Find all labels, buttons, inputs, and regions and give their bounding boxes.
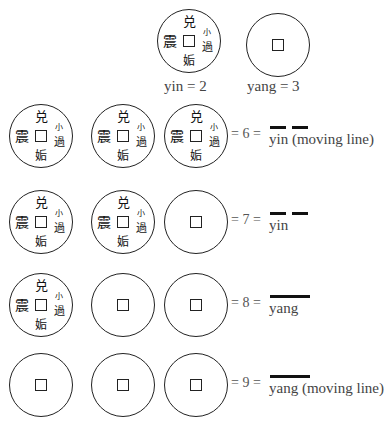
coin-char: 震	[97, 215, 111, 229]
legend-yang-label: yang = 3	[247, 78, 300, 95]
coin-char: 兑	[35, 196, 48, 209]
coin-yin: 兑震姤小過	[9, 104, 73, 168]
square-hole-icon	[117, 216, 129, 228]
coin-char: 震	[15, 298, 29, 312]
coin-char: 過	[54, 137, 65, 148]
coin-char: 過	[54, 223, 65, 234]
coin-char: 小	[55, 293, 63, 301]
square-hole-icon	[190, 130, 202, 142]
legend-yin-label: yin = 2	[164, 78, 207, 95]
square-hole-icon	[272, 39, 284, 51]
coin-char-right-top: 小	[203, 29, 211, 37]
coin-char: 過	[136, 223, 147, 234]
coin-char-bottom: 姤	[183, 55, 195, 67]
coin-char: 姤	[117, 236, 129, 248]
coin-yang	[91, 353, 155, 417]
coin-char: 小	[210, 124, 218, 132]
coin-char: 兑	[117, 196, 130, 209]
row-equation: = 6 =	[231, 126, 261, 142]
square-hole-icon	[35, 130, 47, 142]
coin-char: 小	[137, 124, 145, 132]
coin-char: 兑	[35, 110, 48, 123]
square-hole-icon	[190, 379, 202, 391]
coin-yin: 兑震姤小過	[164, 104, 228, 168]
coin-char: 兑	[35, 279, 48, 292]
coin-char-right-bottom: 過	[202, 42, 213, 53]
square-hole-icon	[35, 299, 47, 311]
coin-yang	[91, 273, 155, 337]
coin-char: 震	[15, 215, 29, 229]
coin-char: 小	[55, 210, 63, 218]
coin-char: 過	[54, 306, 65, 317]
coin-yin: 兑震姤小過	[9, 273, 73, 337]
coin-char: 姤	[35, 150, 47, 162]
coin-char: 姤	[117, 150, 129, 162]
coin-char-left: 震	[163, 34, 177, 48]
square-hole-icon	[117, 130, 129, 142]
coin-char-top: 兑	[183, 15, 196, 28]
square-hole-icon	[117, 379, 129, 391]
legend-yang-coin	[246, 13, 310, 77]
square-hole-icon	[35, 216, 47, 228]
row-equation: = 8 =	[231, 295, 261, 311]
coin-char: 兑	[190, 110, 203, 123]
row-equation: = 9 =	[231, 375, 261, 391]
coin-char: 小	[137, 210, 145, 218]
coin-yang	[164, 190, 228, 254]
coin-char: 姤	[35, 236, 47, 248]
coin-char: 震	[15, 129, 29, 143]
coin-char: 震	[97, 129, 111, 143]
row-description: yang	[269, 300, 298, 317]
coin-yin: 兑震姤小過	[9, 190, 73, 254]
row-description: yin (moving line)	[269, 131, 374, 148]
square-hole-icon	[183, 35, 195, 47]
coin-char: 姤	[35, 319, 47, 331]
coin-char: 震	[170, 129, 184, 143]
coin-yang	[164, 353, 228, 417]
coin-char: 過	[209, 137, 220, 148]
coin-yin: 兑震姤小過	[91, 190, 155, 254]
row-equation: = 7 =	[231, 212, 261, 228]
coin-char: 姤	[190, 150, 202, 162]
square-hole-icon	[35, 379, 47, 391]
coin-char: 過	[136, 137, 147, 148]
square-hole-icon	[117, 299, 129, 311]
row-description: yin	[269, 217, 288, 234]
coin-char: 小	[55, 124, 63, 132]
square-hole-icon	[190, 216, 202, 228]
legend-yin-coin: 兑 震 姤 小 過	[157, 9, 221, 73]
coin-char: 兑	[117, 110, 130, 123]
coin-yin: 兑震姤小過	[91, 104, 155, 168]
row-description: yang (moving line)	[269, 380, 384, 397]
coin-yang	[164, 273, 228, 337]
square-hole-icon	[190, 299, 202, 311]
coin-yang	[9, 353, 73, 417]
